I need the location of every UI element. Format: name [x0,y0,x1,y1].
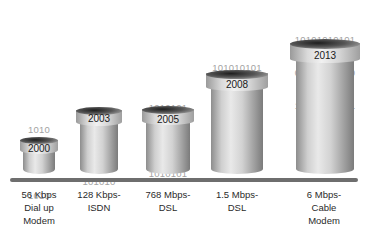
speed-label-2003: 128 Kbps- ISDN [64,188,134,214]
cylinder-2013: 10101010101 01010101010 10101010101 2013 [290,12,360,174]
cylinder-body [211,82,263,174]
cylinder-2008: 101010101 010101010 101010101 2008 [206,40,268,174]
bandwidth-growth-diagram: 1010 0101 1010 2000 101010 010101 101010… [0,0,373,232]
cylinder-rim [206,70,268,79]
speed-label-2013: 6 Mbps- Cable Modem [289,188,359,227]
speed-label-2005: 768 Mbps- DSL [133,188,203,214]
year-label: 2013 [290,50,360,61]
cylinder-2000: 1010 0101 1010 2000 [20,100,58,174]
baseline-bar [10,178,358,182]
cylinder-rim [290,39,360,49]
year-label: 2005 [142,114,194,125]
year-label: 2003 [76,113,122,124]
cylinder-2003: 101010 010101 101010 2003 [76,88,122,174]
year-label: 2000 [20,143,58,154]
bits-line: 1010 [20,124,58,135]
cylinder-body [80,118,119,174]
cylinder-2005: 1010101 0101010 1010101 2005 [142,80,194,174]
speed-label-2008: 1.5 Mbps- DSL [202,188,272,214]
cylinder-rim [142,106,194,114]
year-label: 2008 [206,79,268,90]
cylinder-body [296,52,355,174]
